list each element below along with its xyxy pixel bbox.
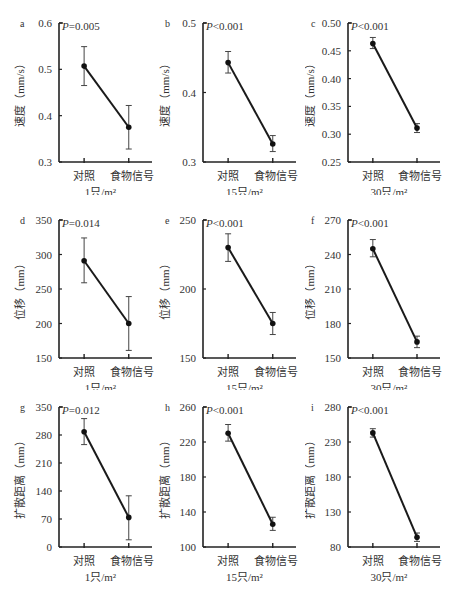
figure-grid: a0.30.40.50.6P=0.005对照食物信号1只/m²速度（mm/s） … [0,0,462,599]
y-tick-label: 250 [36,283,53,295]
y-tick-label: 250 [180,214,197,226]
x-axis-label: 15只/m² [226,382,264,390]
panel-h: h100140180220260P<0.001对照食物信号15只/m²扩散距离（… [155,390,305,585]
y-axis-label: 速度（mm/s） [13,58,26,126]
y-tick-label: 210 [325,283,342,295]
y-tick-label: 0.5 [38,63,52,75]
y-axis-label: 速度（mm/s） [305,58,316,126]
y-tick-label: 180 [325,471,342,483]
x-axis-label: 1只/m² [85,186,117,195]
data-point [225,60,231,66]
x-category-label: 食物信号 [110,554,154,567]
x-axis-label: 1只/m² [85,382,117,390]
data-point [270,521,276,527]
chart-svg: i80130180230280P<0.001对照食物信号30只/m²扩散距离（m… [305,390,462,585]
data-line [373,249,417,342]
panel-a: a0.30.40.50.6P=0.005对照食物信号1只/m²速度（mm/s） [0,0,155,195]
data-point [370,430,376,436]
data-line [84,432,129,518]
data-line [228,248,273,324]
y-tick-label: 150 [180,352,197,364]
x-category-label: 对照 [362,169,384,182]
y-tick-label: 210 [36,457,53,469]
y-tick-label: 230 [325,436,342,448]
panel-letter: i [311,402,314,413]
x-category-label: 食物信号 [398,169,442,182]
p-value-annotation: P=0.014 [61,217,100,229]
panel-letter: d [20,215,25,226]
y-tick-label: 0.3 [182,156,196,168]
panel-letter: g [20,402,25,413]
x-category-label: 食物信号 [254,365,298,378]
y-axis-label: 位移（mm） [305,258,316,319]
y-tick-label: 350 [36,401,53,413]
x-category-label: 食物信号 [254,554,298,567]
p-value-annotation: P<0.001 [350,217,389,229]
data-point [225,430,231,436]
x-category-label: 食物信号 [254,169,298,182]
panel-d: d150200250300350P=0.014对照食物信号1只/m²位移（mm） [0,195,155,390]
x-category-label: 食物信号 [110,169,154,182]
data-line [373,433,417,537]
x-category-label: 对照 [73,554,95,567]
x-axis-label: 30只/m² [370,382,408,390]
y-tick-label: 130 [325,506,342,518]
panel-letter: f [311,215,315,226]
chart-svg: d150200250300350P=0.014对照食物信号1只/m²位移（mm） [0,195,155,390]
y-tick-label: 150 [325,352,342,364]
x-category-label: 对照 [362,365,384,378]
y-tick-label: 0.45 [322,45,342,57]
y-tick-label: 0.4 [38,110,52,122]
p-value-annotation: P<0.001 [205,20,244,32]
x-category-label: 对照 [217,365,239,378]
x-category-label: 食物信号 [110,365,154,378]
y-axis-label: 速度（mm/s） [158,58,171,126]
y-axis-label: 位移（mm） [158,258,171,319]
chart-svg: f150180210240270P<0.001对照食物信号30只/m²位移（mm… [305,195,462,390]
data-point [126,124,132,130]
p-value-annotation: P<0.001 [350,404,389,416]
x-axis-label: 30只/m² [370,186,408,195]
y-axis-label: 位移（mm） [13,258,26,319]
data-point [225,245,231,251]
y-tick-label: 280 [325,401,342,413]
y-tick-label: 150 [36,352,53,364]
x-category-label: 对照 [217,169,239,182]
data-point [414,125,420,131]
chart-svg: h100140180220260P<0.001对照食物信号15只/m²扩散距离（… [155,390,305,585]
y-tick-label: 0.50 [322,17,342,29]
data-point [81,258,87,264]
y-tick-label: 350 [36,214,53,226]
y-tick-label: 240 [325,249,342,261]
x-axis-label: 15只/m² [226,571,264,583]
y-tick-label: 200 [36,318,53,330]
chart-svg: b0.30.40.5P<0.001对照食物信号15只/m²速度（mm/s） [155,0,305,195]
y-tick-label: 0.30 [322,128,342,140]
y-tick-label: 300 [36,249,53,261]
data-point [126,321,132,327]
y-tick-label: 0 [47,541,53,553]
p-value-annotation: P<0.001 [350,20,389,32]
data-line [228,433,273,524]
x-category-label: 食物信号 [398,554,442,567]
panel-b: b0.30.40.5P<0.001对照食物信号15只/m²速度（mm/s） [155,0,305,195]
panel-i: i80130180230280P<0.001对照食物信号30只/m²扩散距离（m… [305,390,462,585]
y-tick-label: 0.4 [182,87,196,99]
y-tick-label: 100 [180,541,197,553]
p-value-annotation: P=0.005 [61,20,100,32]
chart-svg: c0.250.300.350.400.450.50P<0.001对照食物信号30… [305,0,462,195]
panel-e: e150200250P<0.001对照食物信号15只/m²位移（mm） [155,195,305,390]
data-point [126,515,132,521]
p-value-annotation: P<0.001 [205,404,244,416]
x-category-label: 对照 [217,554,239,567]
y-tick-label: 0.6 [38,17,52,29]
x-axis-label: 30只/m² [370,571,408,583]
y-tick-label: 260 [180,401,197,413]
x-category-label: 对照 [73,169,95,182]
y-tick-label: 220 [180,436,197,448]
panel-letter: h [165,402,170,413]
data-point [370,41,376,47]
chart-svg: a0.30.40.50.6P=0.005对照食物信号1只/m²速度（mm/s） [0,0,155,195]
data-point [270,141,276,147]
y-tick-label: 140 [36,485,53,497]
